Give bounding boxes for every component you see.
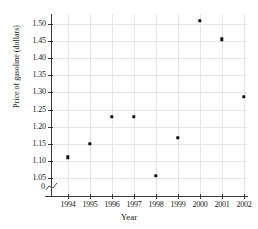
y-axis-tick — [48, 24, 53, 25]
y-axis-tick-label: 1.10 — [0, 157, 46, 165]
gridline-horizontal — [51, 41, 247, 42]
y-axis-tick — [48, 161, 53, 162]
gridline-horizontal — [51, 58, 247, 59]
y-axis-tick — [48, 75, 53, 76]
gridline-vertical — [156, 14, 157, 196]
y-axis-tick — [48, 178, 53, 179]
y-axis-tick-label: 1.05 — [0, 174, 46, 182]
y-axis-tick-label: 1.25 — [0, 106, 46, 114]
x-axis-tick — [68, 194, 69, 199]
y-axis-tick — [48, 41, 53, 42]
gridline-vertical — [222, 14, 223, 196]
gridline-vertical — [244, 14, 245, 196]
x-axis-tick — [178, 194, 179, 199]
y-axis-tick-label: 1.45 — [0, 37, 46, 45]
y-axis-tick-label: 1.35 — [0, 71, 46, 79]
x-axis-tick-label: 2002 — [224, 201, 258, 209]
y-axis-tick — [48, 58, 53, 59]
gridline-horizontal — [51, 161, 247, 162]
scatter-chart: 0 Price of gasoline (dollars) Year 1.051… — [0, 0, 258, 229]
gridline-horizontal — [51, 178, 247, 179]
x-axis-tick — [200, 194, 201, 199]
gridline-horizontal — [51, 127, 247, 128]
y-axis-tick — [48, 92, 53, 93]
gridline-vertical — [134, 14, 135, 196]
x-axis-tick — [134, 194, 135, 199]
y-axis-tick — [48, 127, 53, 128]
gridline-vertical — [90, 14, 91, 196]
gridline-horizontal — [51, 110, 247, 111]
y-axis-tick-label: 1.30 — [0, 88, 46, 96]
gridline-horizontal — [51, 92, 247, 93]
x-axis-tick — [112, 194, 113, 199]
x-axis-title: Year — [0, 212, 258, 222]
gridline-vertical — [178, 14, 179, 196]
gridline-vertical — [112, 14, 113, 196]
gridline-horizontal — [51, 24, 247, 25]
gridline-vertical — [68, 14, 69, 196]
x-axis-tick — [222, 194, 223, 199]
x-axis-tick — [244, 194, 245, 199]
y-axis-tick-label: 1.15 — [0, 140, 46, 148]
x-axis-tick — [156, 194, 157, 199]
plot-area — [51, 14, 247, 196]
x-axis-line — [45, 196, 248, 197]
gridline-horizontal — [51, 144, 247, 145]
y-axis-tick-label: 1.50 — [0, 20, 46, 28]
gridline-vertical — [200, 14, 201, 196]
y-axis-tick — [48, 110, 53, 111]
y-axis-tick — [48, 144, 53, 145]
y-axis-tick-label: 1.20 — [0, 123, 46, 131]
x-axis-tick — [90, 194, 91, 199]
gridline-horizontal — [51, 75, 247, 76]
y-axis-tick-label: 1.40 — [0, 54, 46, 62]
